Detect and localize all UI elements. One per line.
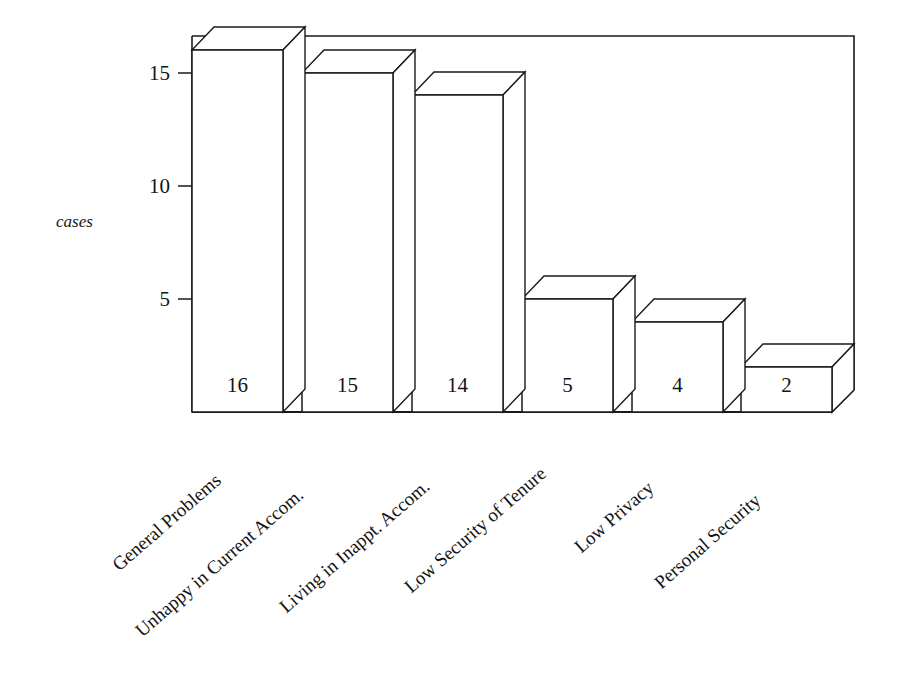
bar-value-label: 4 <box>632 373 723 398</box>
bar-value-label: 5 <box>522 373 613 398</box>
bar-chart: cases 15 10 5 16 15 14 5 4 2 General Pro… <box>0 0 902 674</box>
y-axis-title: cases <box>56 212 93 232</box>
bar-general-problems[interactable] <box>192 27 305 412</box>
bar-living-in-inappt-accom[interactable] <box>412 72 525 412</box>
y-tick-label-5: 5 <box>118 287 170 312</box>
bar-unhappy-in-current-accom[interactable] <box>302 50 415 412</box>
bar-value-label: 2 <box>741 373 832 398</box>
bar-value-label: 16 <box>192 373 283 398</box>
bar-value-label: 14 <box>412 373 503 398</box>
bar-value-label: 15 <box>302 373 393 398</box>
y-tick-label-10: 10 <box>118 174 170 199</box>
chart-canvas <box>0 0 902 674</box>
y-tick-label-15: 15 <box>118 61 170 86</box>
y-axis-ticks <box>178 73 192 299</box>
bars-group <box>192 27 854 412</box>
